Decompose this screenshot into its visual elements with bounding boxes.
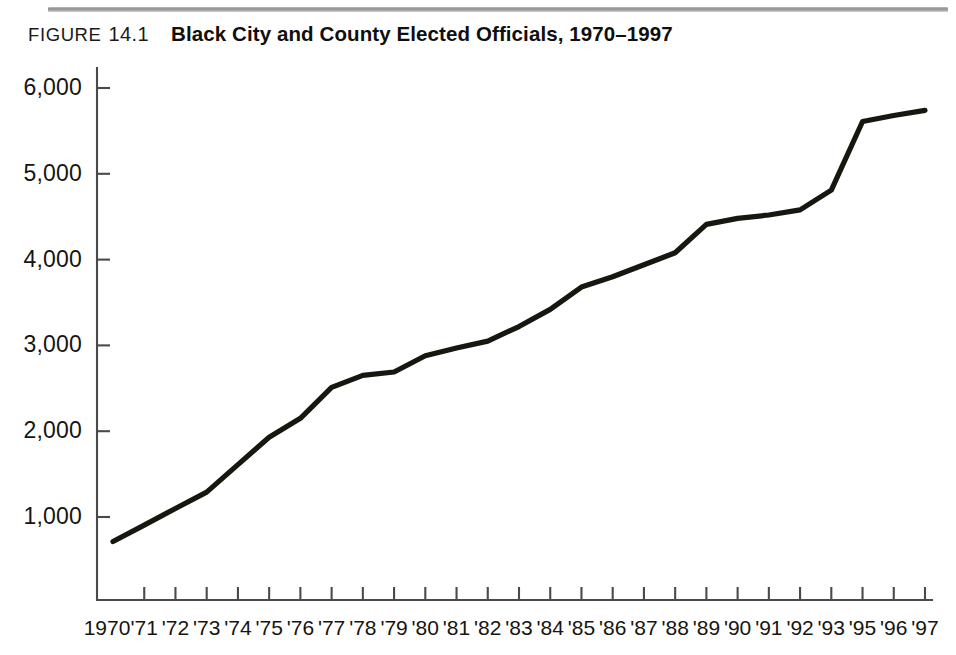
y-axis-ticks — [97, 88, 110, 517]
chart-canvas — [0, 0, 956, 655]
chart-series — [113, 110, 925, 541]
y-tick-label: 5,000 — [23, 162, 82, 185]
chart-axes — [97, 68, 932, 600]
axis-lines — [97, 68, 932, 600]
y-tick-label: 2,000 — [23, 419, 82, 442]
y-tick-label: 4,000 — [23, 248, 82, 271]
x-tick-label: '97 — [885, 617, 956, 638]
y-tick-label: 1,000 — [23, 505, 82, 528]
x-axis-ticks — [144, 587, 925, 600]
y-tick-label: 3,000 — [23, 333, 82, 356]
data-series-line — [113, 110, 925, 541]
line-chart: 1,0002,0003,0004,0005,0006,000 1970'71'7… — [0, 0, 956, 655]
y-tick-label: 6,000 — [23, 76, 82, 99]
